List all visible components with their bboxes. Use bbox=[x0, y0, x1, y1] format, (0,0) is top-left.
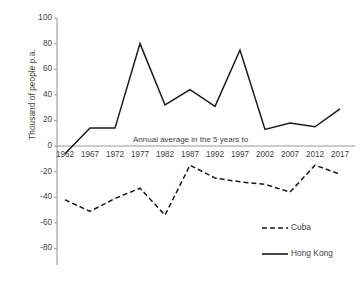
chart-annotation: Annual average in the 5 years to bbox=[133, 135, 248, 144]
x-tick-label: 2017 bbox=[325, 150, 355, 159]
y-tick-label: 40 bbox=[26, 90, 52, 99]
y-tick-label: -40 bbox=[26, 192, 52, 201]
y-tick-label: 80 bbox=[26, 39, 52, 48]
y-tick-label: 60 bbox=[26, 64, 52, 73]
y-tick-label: -20 bbox=[26, 167, 52, 176]
series-line-cuba bbox=[65, 165, 340, 215]
legend-label-cuba: Cuba bbox=[291, 222, 311, 232]
y-tick-label: -60 bbox=[26, 218, 52, 227]
legend-label-hong-kong: Hong Kong bbox=[291, 248, 333, 258]
y-tick-label: 100 bbox=[26, 13, 52, 22]
chart-container: Thousand of people p.a. 100806040200-20-… bbox=[0, 0, 362, 281]
y-tick-label: -80 bbox=[26, 243, 52, 252]
y-tick-label: 0 bbox=[26, 141, 52, 150]
y-tick-label: 20 bbox=[26, 115, 52, 124]
